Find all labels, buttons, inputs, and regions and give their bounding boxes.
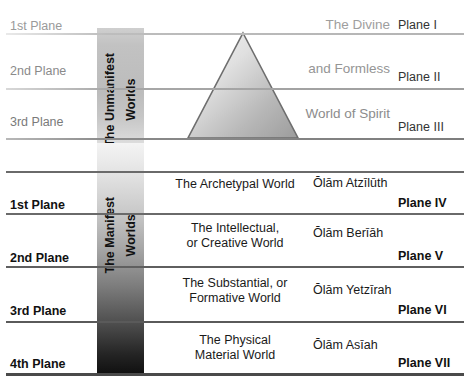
upper-row-1-description: The Divine [230,17,390,32]
upper-row-2-plane-right: Plane II [398,70,468,84]
lower-row-1-plane-right: Plane IV [398,196,468,210]
rule-upper-1 [6,33,464,35]
upper-row-2-description: and Formless [230,61,390,76]
lower-row-4-plane-left: 4th Plane [10,357,96,371]
rule-lower-3 [6,321,464,323]
rule-upper-2 [6,88,464,90]
lower-row-3-world: The Substantial, or Formative World [160,276,310,306]
lower-row-3-olam: Ōlām Yetzīrah [313,283,428,297]
lower-row-1-world: The Archetypal World [160,177,310,192]
lower-row-4-olam: Ōlām Asīah [313,338,423,352]
lower-row-4-world: The Physical Material World [160,333,310,363]
rule-lower-1 [6,213,464,215]
rule-lower-2 [6,266,464,268]
lower-row-4-plane-right: Plane VII [398,356,468,370]
lower-row-1-olam: Ōlām Atzīlūth [313,176,423,190]
upper-row-3-plane-right: Plane III [398,120,468,134]
rule-upper-3 [6,138,464,140]
manifest-worlds-column: The Manifest Worlds [97,143,144,373]
upper-row-3-description: World of Spirit [215,106,390,121]
lower-row-2-olam: Ōlām Berīāh [313,226,423,240]
triangle-shape [183,28,303,143]
upper-row-1-plane-right: Plane I [398,18,468,32]
rule-lower-top [6,171,464,173]
upper-row-3-plane-left: 3rd Plane [10,115,96,129]
lower-row-1-plane-left: 1st Plane [10,198,96,212]
rule-lower-bottom [6,373,464,376]
manifest-worlds-label: The Manifest Worlds [100,197,142,273]
lower-row-2-plane-left: 2nd Plane [10,251,96,265]
manifest-worlds-label-wrap: The Manifest Worlds [97,148,144,323]
unmanifest-worlds-label: The Unmanifest Worlds [100,53,142,147]
upper-row-1-plane-left: 1st Plane [10,19,96,33]
lower-row-3-plane-right: Plane VI [398,303,468,317]
lower-row-2-plane-right: Plane V [398,249,468,263]
planes-diagram: The Unmanifest Worlds The Manifest World… [0,0,470,390]
upper-row-2-plane-left: 2nd Plane [10,64,96,78]
lower-row-2-world: The Intellectual, or Creative World [160,221,310,251]
lower-row-3-plane-left: 3rd Plane [10,304,96,318]
